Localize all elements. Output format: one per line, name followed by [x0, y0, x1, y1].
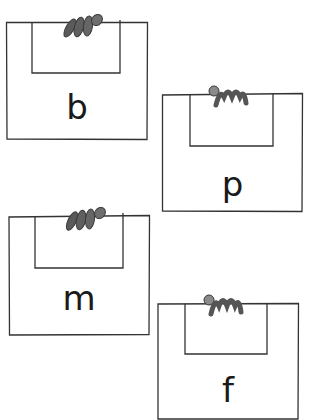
card-letter: p	[162, 167, 303, 201]
card-m: m	[8, 215, 150, 335]
hand-grip-icon	[201, 291, 251, 321]
card-letter: m	[8, 281, 150, 315]
card-p: p	[162, 93, 303, 212]
card-f: f	[157, 303, 299, 418]
card-letter: f	[157, 373, 299, 407]
card-letter: b	[6, 90, 148, 124]
hand-grip-icon	[206, 83, 256, 113]
hand-grip-icon	[62, 10, 122, 40]
card-b: b	[6, 22, 148, 140]
hand-grip-icon	[64, 205, 124, 235]
